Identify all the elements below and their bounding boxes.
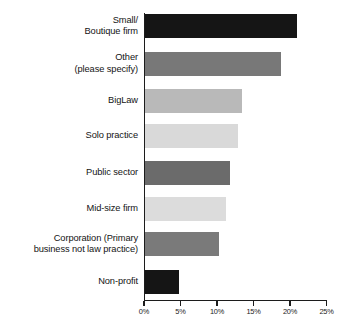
x-axis-tick-label: 20% <box>283 307 297 316</box>
x-axis-tick-label: 5% <box>175 307 185 316</box>
category-label: Corporation (Primary business not law pr… <box>34 233 138 256</box>
x-axis-tick-mark <box>289 301 290 306</box>
x-axis-tick-mark <box>326 301 327 306</box>
plot-area: 0%5%10%15%20%25% Small/ Boutique firmOth… <box>0 0 356 331</box>
x-axis-line <box>144 300 327 301</box>
x-axis-tick-mark <box>253 301 254 306</box>
category-label: BigLaw <box>108 95 138 106</box>
bar <box>145 270 179 294</box>
bar <box>145 232 219 256</box>
category-label: Mid-size firm <box>87 203 138 214</box>
x-axis-tick-mark <box>216 301 217 306</box>
x-axis-tick-label: 10% <box>210 307 224 316</box>
bar <box>145 52 281 76</box>
category-label: Small/ Boutique firm <box>85 15 138 38</box>
bar <box>145 124 238 148</box>
category-label: Public sector <box>86 167 138 178</box>
x-axis-tick-label: 15% <box>246 307 260 316</box>
x-axis-tick-mark <box>143 301 144 306</box>
bar-chart: 0%5%10%15%20%25% Small/ Boutique firmOth… <box>0 0 356 331</box>
category-label: Solo practice <box>86 130 138 141</box>
x-axis-tick-label: 25% <box>319 307 333 316</box>
bar <box>145 161 230 185</box>
bar <box>145 89 242 113</box>
x-axis-tick-mark <box>180 301 181 306</box>
category-label: Other (please specify) <box>74 52 138 75</box>
bar <box>145 197 226 221</box>
category-label: Non-profit <box>98 276 138 287</box>
x-axis-tick-label: 0% <box>139 307 149 316</box>
bar <box>145 14 297 38</box>
